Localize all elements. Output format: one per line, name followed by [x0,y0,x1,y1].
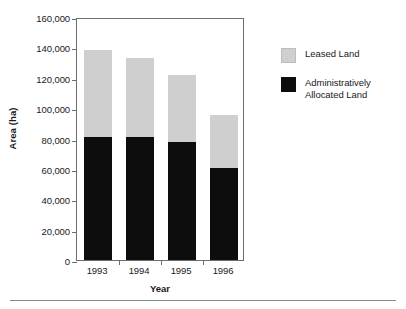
y-axis-tick-label: 120,000 [8,73,70,84]
bottom-divider [10,300,396,301]
y-axis-tick [72,262,77,263]
y-axis-tick-label: 0 [8,256,70,267]
y-axis-tick [72,110,77,111]
bar-segment-leased-1995[interactable] [168,75,196,142]
x-axis-tick-label-1996: 1996 [200,265,246,276]
y-axis-tick-label: 100,000 [8,104,70,115]
bar-stack-1995[interactable] [168,17,196,260]
y-axis-tick-label: 140,000 [8,43,70,54]
bar-stack-1994[interactable] [126,17,154,260]
bar-segment-allocated-1996[interactable] [210,168,238,260]
y-axis-tick [72,232,77,233]
legend-swatch-leased-land-icon [281,48,296,63]
chart-figure: Area (ha) 160,000140,000120,000100,00080… [0,0,406,309]
chart-legend: Leased Land AdministrativelyAllocated La… [281,48,405,114]
y-axis-tick [72,171,77,172]
y-axis-tick-label: 20,000 [8,225,70,236]
bar-segment-leased-1996[interactable] [210,115,238,168]
x-axis-tick-label-1995: 1995 [158,265,204,276]
bar-stack-1993[interactable] [84,17,112,260]
bar-segment-allocated-1995[interactable] [168,142,196,260]
y-axis-tick-label: 40,000 [8,195,70,206]
bar-segment-allocated-1994[interactable] [126,137,154,260]
legend-label-allocated-line1: Administratively [305,77,371,88]
legend-item-administratively-allocated-land: AdministrativelyAllocated Land [281,77,405,100]
legend-item-leased-land: Leased Land [281,48,405,63]
y-axis-tick [72,80,77,81]
x-axis-tick-label-1994: 1994 [116,265,162,276]
x-axis-tick-label-1993: 1993 [74,265,120,276]
legend-label-allocated-line2: Allocated Land [305,89,367,100]
y-axis-tick-label: 160,000 [8,13,70,24]
x-axis-title: Year [76,283,244,294]
y-axis-tick [72,49,77,50]
legend-swatch-allocated-land-icon [281,77,296,92]
y-axis-tick [72,19,77,20]
y-axis-tick-label: 80,000 [8,134,70,145]
y-axis-tick [72,201,77,202]
legend-label-leased-land: Leased Land [305,48,359,60]
bar-segment-leased-1994[interactable] [126,58,154,137]
y-axis-tick-label: 60,000 [8,164,70,175]
plot-area [76,18,244,261]
y-axis-tick-labels: 160,000140,000120,000100,00080,00060,000… [8,18,70,261]
y-axis-tick [72,141,77,142]
bar-segment-allocated-1993[interactable] [84,137,112,260]
bar-stack-1996[interactable] [210,17,238,260]
bar-segment-leased-1993[interactable] [84,50,112,137]
legend-label-allocated-land: AdministrativelyAllocated Land [305,77,371,100]
plot-inner [77,19,243,260]
